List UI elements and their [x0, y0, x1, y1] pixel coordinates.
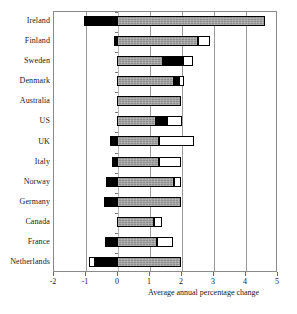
category-label: Finland	[0, 36, 50, 46]
category-label: France	[0, 237, 50, 247]
x-tick-label: 3	[211, 277, 215, 286]
x-tick	[213, 272, 214, 276]
category-label: US	[0, 116, 50, 126]
category-label: Ireland	[0, 16, 50, 26]
bar-row[interactable]	[53, 131, 277, 151]
bar-segment-black	[95, 257, 117, 267]
bar-segment-gray	[117, 36, 198, 46]
bar-row[interactable]	[53, 31, 277, 51]
bar-chart: IrelandFinlandSwedenDenmarkAustraliaUSUK…	[0, 0, 297, 314]
x-tick	[53, 272, 54, 276]
bar-row[interactable]	[53, 252, 277, 272]
x-tick-label: 1	[147, 277, 151, 286]
bars-container	[53, 11, 277, 272]
bar-row[interactable]	[53, 192, 277, 212]
x-tick-label: 4	[243, 277, 247, 286]
x-tick-label: 0	[115, 277, 119, 286]
x-tick	[85, 272, 86, 276]
bar-row[interactable]	[53, 51, 277, 71]
x-tick-label: 5	[275, 277, 279, 286]
bar-segment-gray	[117, 136, 159, 146]
bar-row[interactable]	[53, 212, 277, 232]
bar-segment-black	[110, 136, 117, 146]
category-axis-labels: IrelandFinlandSwedenDenmarkAustraliaUSUK…	[0, 11, 50, 272]
bar-segment-gray	[117, 177, 174, 187]
bar-row[interactable]	[53, 11, 277, 31]
x-tick-label: -1	[82, 277, 89, 286]
x-tick	[117, 272, 118, 276]
x-tick-label: 2	[179, 277, 183, 286]
bar-segment-gray	[117, 16, 265, 26]
bar-segment-black	[106, 177, 117, 187]
bar-segment-gray	[117, 197, 181, 207]
bar-segment-gray	[117, 257, 181, 267]
bar-segment-white	[157, 237, 173, 247]
bar-segment-gray	[117, 96, 181, 106]
bar-row[interactable]	[53, 71, 277, 91]
category-label: Germany	[0, 197, 50, 207]
bar-segment-white	[183, 56, 193, 66]
bar-segment-white	[159, 136, 194, 146]
x-tick	[149, 272, 150, 276]
category-label: Netherlands	[0, 257, 50, 267]
category-label: Sweden	[0, 56, 50, 66]
bar-segment-white	[174, 177, 181, 187]
category-label: Norway	[0, 177, 50, 187]
category-label: Italy	[0, 157, 50, 167]
bar-segment-black	[104, 197, 117, 207]
bar-segment-white	[179, 76, 184, 86]
x-tick-label: -2	[50, 277, 57, 286]
category-label: Canada	[0, 217, 50, 227]
category-label: Denmark	[0, 76, 50, 86]
bar-row[interactable]	[53, 232, 277, 252]
bar-segment-white	[159, 157, 181, 167]
x-tick	[181, 272, 182, 276]
category-label: Australia	[0, 96, 50, 106]
bar-segment-white	[198, 36, 210, 46]
x-tick	[277, 272, 278, 276]
bar-segment-gray	[117, 237, 157, 247]
bar-segment-gray	[117, 56, 163, 66]
bar-segment-white	[154, 217, 162, 227]
category-label: UK	[0, 137, 50, 147]
bar-segment-black	[84, 16, 117, 26]
bar-segment-black	[105, 237, 117, 247]
bar-row[interactable]	[53, 91, 277, 111]
bar-segment-gray	[117, 116, 156, 126]
x-axis-title: Average annual percentage change	[148, 288, 259, 297]
bar-segment-gray	[117, 76, 174, 86]
bar-row[interactable]	[53, 172, 277, 192]
bar-segment-black	[163, 56, 182, 66]
bar-segment-white	[167, 116, 182, 126]
bar-segment-black	[156, 116, 166, 126]
bar-segment-gray	[117, 157, 159, 167]
bar-row[interactable]	[53, 111, 277, 131]
bar-segment-gray	[117, 217, 154, 227]
x-tick	[245, 272, 246, 276]
bar-row[interactable]	[53, 152, 277, 172]
